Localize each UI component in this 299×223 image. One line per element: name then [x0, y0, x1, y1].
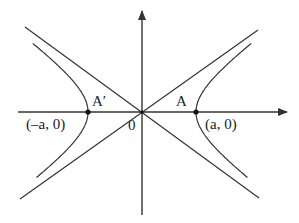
vertex-right-label: A: [176, 93, 187, 109]
asymptote-positive-slope: [20, 30, 258, 199]
hyperbola-diagram: A′ A (–a, 0) (a, 0) 0: [0, 0, 299, 223]
origin-label: 0: [128, 117, 136, 133]
vertex-right-point: [193, 109, 198, 114]
coord-right-label: (a, 0): [205, 116, 237, 133]
vertex-left-label: A′: [92, 93, 106, 109]
origin-point: [140, 110, 143, 113]
vertex-left-point: [85, 109, 90, 114]
hyperbola-left-branch: [33, 43, 88, 177]
coord-left-label: (–a, 0): [26, 116, 65, 133]
